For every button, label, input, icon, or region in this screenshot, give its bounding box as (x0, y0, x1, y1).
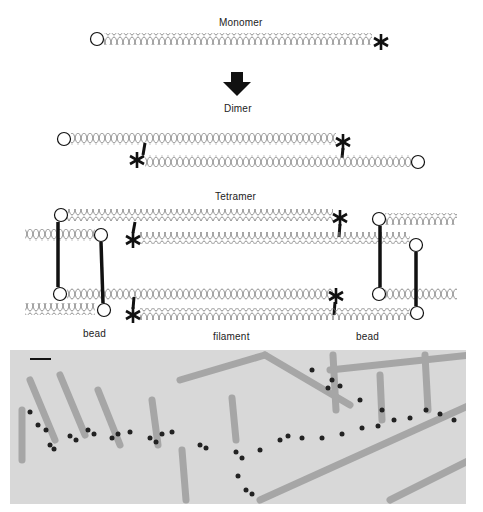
electron-micrograph (10, 350, 466, 504)
tail-asterisk-icon (336, 134, 350, 150)
tetramer-molecule (25, 209, 457, 324)
tail-asterisk-icon (374, 34, 388, 50)
schematic-diagram (0, 0, 483, 350)
head-circle-icon (58, 133, 71, 146)
head-circle-icon (412, 156, 425, 169)
dimer-molecule (58, 133, 425, 169)
down-arrow-icon (223, 72, 251, 96)
monomer-molecule (91, 33, 389, 51)
head-circle-icon (91, 33, 104, 46)
